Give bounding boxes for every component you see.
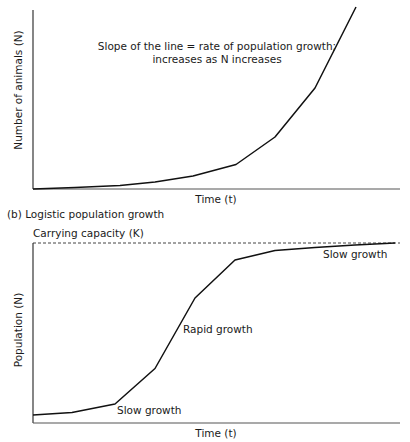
carrying-capacity-label: Carrying capacity (K) — [33, 227, 144, 239]
panel-a-y-axis-label: Number of animals (N) — [12, 30, 24, 149]
panel-a-exponential-curve — [33, 7, 356, 189]
panel-b-y-axis-label: Population (N) — [12, 293, 24, 368]
figure: Slope of the line = rate of population g… — [0, 0, 410, 442]
rapid-growth-label: Rapid growth — [183, 323, 253, 335]
panel-a-annotation-line1: Slope of the line = rate of population g… — [98, 40, 336, 52]
panel-a-exponential-chart: Slope of the line = rate of population g… — [12, 7, 400, 205]
slow-growth-early-label: Slow growth — [117, 404, 181, 416]
panel-b-title: (b) Logistic population growth — [7, 208, 164, 220]
panel-b-logistic-chart: (b) Logistic population growth Carrying … — [7, 208, 400, 439]
panel-a-annotation-line2: increases as N increases — [152, 53, 281, 65]
panel-a-x-axis-label: Time (t) — [194, 193, 236, 205]
panel-b-x-axis-label: Time (t) — [194, 427, 236, 439]
slow-growth-late-label: Slow growth — [323, 248, 387, 260]
